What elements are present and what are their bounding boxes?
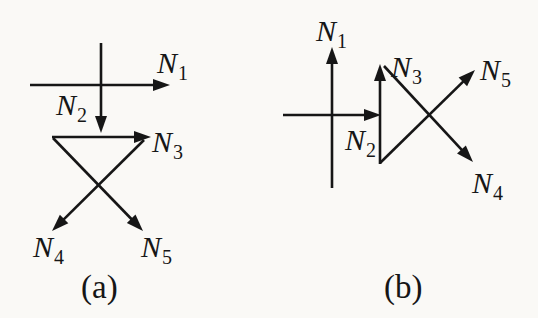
force-diagrams-figure: N1N2N3N4N5N1N2N3N4N5 (a) (b) xyxy=(0,0,538,318)
caption-panel-b: (b) xyxy=(384,271,422,304)
panel-b-arrow-n1 xyxy=(326,47,338,188)
panel-a-arrow-n2 xyxy=(95,43,107,133)
caption-panel-a: (a) xyxy=(81,271,118,304)
panel-a-arrow-n3 xyxy=(52,131,151,143)
